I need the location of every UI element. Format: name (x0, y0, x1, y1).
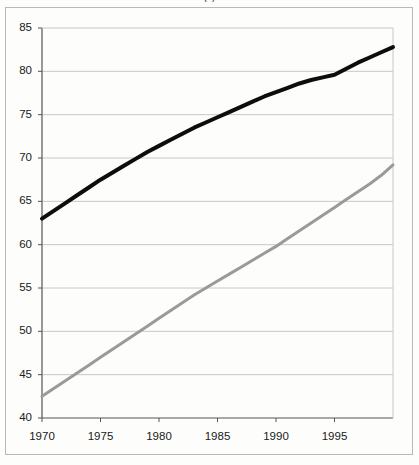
x-axis-tick-label: 1975 (78, 430, 124, 442)
y-axis-tick-label: 75 (6, 108, 32, 120)
x-axis-tick-label: 1990 (253, 430, 299, 442)
y-axis-tick-label: 70 (6, 151, 32, 163)
plot-area: 4045505560657075808519701975198019851990… (0, 0, 419, 465)
y-axis-tick-label: 85 (6, 21, 32, 33)
y-axis-tick-label: 60 (6, 238, 32, 250)
x-axis-tick-label: 1985 (195, 430, 241, 442)
x-axis-tick-label: 1980 (136, 430, 182, 442)
y-axis-tick-label: 80 (6, 64, 32, 76)
y-axis-tick-label: 50 (6, 324, 32, 336)
series-line-upper-series (42, 47, 393, 219)
y-axis-tick-label: 45 (6, 368, 32, 380)
x-axis-tick-label: 1995 (312, 430, 358, 442)
y-axis-tick-label: 40 (6, 411, 32, 423)
series-line-lower-series (42, 165, 393, 396)
line-chart-svg (0, 0, 419, 465)
x-axis-tick-label: 1970 (19, 430, 65, 442)
y-axis-tick-label: 55 (6, 281, 32, 293)
chart-page: ( ) 404550556065707580851970197519801985… (0, 0, 419, 465)
series-group (42, 47, 393, 396)
y-axis-tick-label: 65 (6, 194, 32, 206)
